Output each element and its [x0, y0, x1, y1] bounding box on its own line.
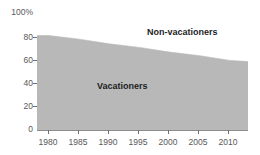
x-axis-line	[37, 130, 248, 131]
cropped-title-remnant	[0, 0, 260, 2]
stacked-area-chart: 100% 80 60 40 20 0 Non-vacationers Vacat…	[0, 0, 260, 155]
y-tick-label-0: 0	[3, 125, 33, 134]
y-axis: 100% 80 60 40 20 0	[0, 0, 33, 155]
y-tick-label-40: 40	[3, 79, 33, 88]
y-tick-label-60: 60	[3, 56, 33, 65]
x-tick-mark-2005	[198, 130, 199, 134]
y-tick-label-80: 80	[3, 33, 33, 42]
x-tick-mark-1990	[108, 130, 109, 134]
x-tick-mark-1995	[138, 130, 139, 134]
x-tick-label-2010: 2010	[208, 137, 248, 147]
series-label-non-vacationers: Non-vacationers	[147, 27, 218, 37]
y-tick-label-100: 100%	[3, 8, 33, 17]
series-label-vacationers: Vacationers	[97, 81, 148, 91]
x-tick-mark-1980	[48, 130, 49, 134]
x-tick-mark-2010	[228, 130, 229, 134]
x-tick-mark-2000	[168, 130, 169, 134]
y-tick-label-20: 20	[3, 102, 33, 111]
x-tick-mark-1985	[78, 130, 79, 134]
